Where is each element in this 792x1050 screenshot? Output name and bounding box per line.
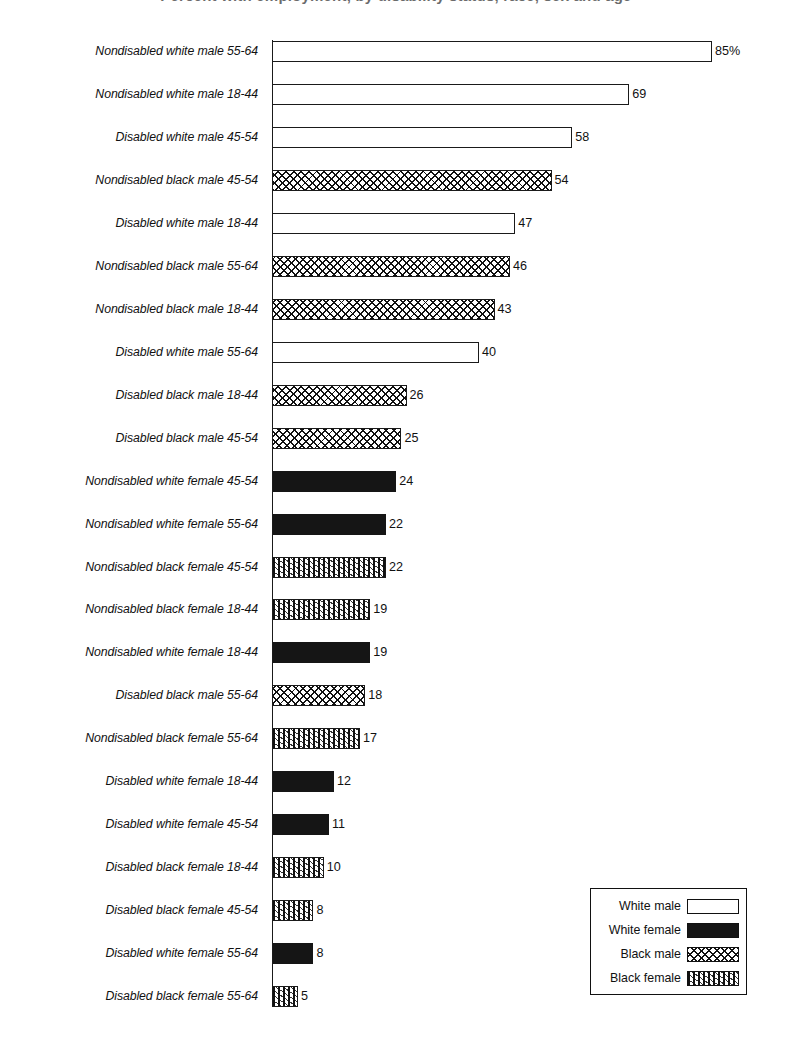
bar-value-label: 40: [479, 341, 496, 364]
bar-value-label: 8: [313, 942, 323, 965]
bar-black-male: [272, 428, 401, 449]
bar-row: Disabled black male 45-5425: [0, 427, 792, 450]
bar-white-male: [272, 342, 479, 363]
bar-value-label: 47: [515, 212, 532, 235]
bar-value-label: 85%: [712, 40, 740, 63]
bar-white-male: [272, 84, 629, 105]
bar-category-label: Nondisabled black male 45-54: [95, 169, 258, 192]
bar-value-label: 26: [407, 384, 424, 407]
legend-item-label: Black female: [610, 971, 681, 985]
bar-black-male: [272, 256, 510, 277]
legend-item-white-female: White female: [598, 918, 739, 942]
bar-white-female: [272, 642, 370, 663]
bar-black-male: [272, 385, 407, 406]
bar-black-female: [272, 599, 370, 620]
legend-item-black-female: Black female: [598, 966, 739, 990]
bar-black-male: [272, 299, 495, 320]
bar-value-label: 46: [510, 255, 527, 278]
bar-white-female: [272, 514, 386, 535]
bar-row: Disabled white male 45-5458: [0, 126, 792, 149]
bar-black-female: [272, 557, 386, 578]
bar-category-label: Nondisabled black female 55-64: [85, 727, 258, 750]
bar-value-label: 22: [386, 556, 403, 579]
bar-category-label: Nondisabled black male 55-64: [95, 255, 258, 278]
bar-value-label: 25: [401, 427, 418, 450]
bar-white-female: [272, 814, 329, 835]
bar-category-label: Disabled black female 55-64: [106, 985, 258, 1008]
legend-item-label: White female: [609, 923, 681, 937]
bar-value-label: 18: [365, 684, 382, 707]
bar-value-label: 69: [629, 83, 646, 106]
bar-value-label: 8: [313, 899, 323, 922]
bar-row: Nondisabled black female 55-6417: [0, 727, 792, 750]
bar-category-label: Disabled white male 55-64: [116, 341, 258, 364]
bar-category-label: Disabled black male 18-44: [116, 384, 258, 407]
bar-row: Nondisabled white female 45-5424: [0, 470, 792, 493]
bar-value-label: 22: [386, 513, 403, 536]
legend-item-label: Black male: [620, 947, 681, 961]
bar-row: Nondisabled black female 45-5422: [0, 556, 792, 579]
bar-row: Disabled black male 55-6418: [0, 684, 792, 707]
value-axis-baseline: [272, 40, 273, 1006]
bar-category-label: Disabled black female 45-54: [106, 899, 258, 922]
bar-row: Disabled black female 18-4410: [0, 856, 792, 879]
bar-value-label: 58: [572, 126, 589, 149]
bar-white-male: [272, 213, 515, 234]
legend-swatch-black-female-icon: [687, 971, 739, 986]
bar-row: Nondisabled black male 45-5454: [0, 169, 792, 192]
bar-value-label: 10: [324, 856, 341, 879]
bar-white-female: [272, 771, 334, 792]
bar-value-label: 19: [370, 641, 387, 664]
bar-category-label: Disabled white female 45-54: [106, 813, 258, 836]
bar-row: Nondisabled white male 55-6485%: [0, 40, 792, 63]
bar-row: Disabled white male 18-4447: [0, 212, 792, 235]
bar-value-label: 17: [360, 727, 377, 750]
bar-category-label: Nondisabled white female 55-64: [85, 513, 258, 536]
bar-category-label: Nondisabled black male 18-44: [95, 298, 258, 321]
bar-black-male: [272, 685, 365, 706]
bar-value-label: 5: [298, 985, 308, 1008]
bar-category-label: Nondisabled white male 55-64: [95, 40, 258, 63]
bar-white-female: [272, 943, 313, 964]
bar-row: Nondisabled black female 18-4419: [0, 598, 792, 621]
bar-black-female: [272, 900, 313, 921]
legend-swatch-white-male-icon: [687, 899, 739, 914]
bar-row: Disabled black male 18-4426: [0, 384, 792, 407]
bar-category-label: Disabled white female 55-64: [106, 942, 258, 965]
bar-category-label: Nondisabled black female 45-54: [85, 556, 258, 579]
bar-black-female: [272, 857, 324, 878]
bar-value-label: 19: [370, 598, 387, 621]
bar-row: Nondisabled black male 55-6446: [0, 255, 792, 278]
bar-row: Nondisabled black male 18-4443: [0, 298, 792, 321]
bar-row: Disabled white male 55-6440: [0, 341, 792, 364]
legend-swatch-white-female-icon: [687, 923, 739, 938]
bar-value-label: 11: [329, 813, 345, 836]
legend-item-white-male: White male: [598, 894, 739, 918]
bar-value-label: 24: [396, 470, 413, 493]
legend-swatch-black-male-icon: [687, 947, 739, 962]
bar-category-label: Disabled black male 55-64: [116, 684, 258, 707]
bar-row: Nondisabled white female 55-6422: [0, 513, 792, 536]
bar-row: Nondisabled white female 18-4419: [0, 641, 792, 664]
legend-item-black-male: Black male: [598, 942, 739, 966]
bar-category-label: Disabled white female 18-44: [106, 770, 258, 793]
bar-category-label: Disabled black male 45-54: [116, 427, 258, 450]
chart-legend: White maleWhite femaleBlack maleBlack fe…: [590, 888, 747, 995]
bar-category-label: Nondisabled white female 18-44: [85, 641, 258, 664]
legend-item-label: White male: [619, 899, 681, 913]
bar-row: Nondisabled white male 18-4469: [0, 83, 792, 106]
bar-black-female: [272, 986, 298, 1007]
bar-category-label: Disabled white male 18-44: [116, 212, 258, 235]
bar-white-female: [272, 471, 396, 492]
bar-white-male: [272, 41, 712, 62]
bar-category-label: Nondisabled white female 45-54: [85, 470, 258, 493]
bar-row: Disabled white female 45-5411: [0, 813, 792, 836]
bar-black-male: [272, 170, 552, 191]
bar-value-label: 12: [334, 770, 351, 793]
bar-value-label: 54: [552, 169, 569, 192]
bar-category-label: Nondisabled white male 18-44: [95, 83, 258, 106]
bar-category-label: Nondisabled black female 18-44: [85, 598, 258, 621]
bar-value-label: 43: [495, 298, 512, 321]
bar-category-label: Disabled white male 45-54: [116, 126, 258, 149]
bar-black-female: [272, 728, 360, 749]
